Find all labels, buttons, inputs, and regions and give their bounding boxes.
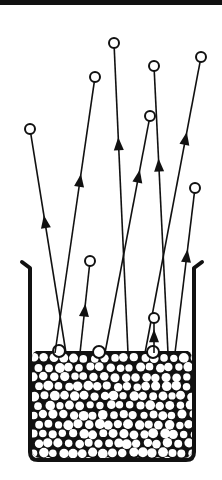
bed-particle [165,420,175,430]
bed-particle [93,382,102,391]
bed-particle [177,410,186,419]
bed-particle [87,401,94,408]
bed-particle [75,364,83,372]
bed-particle [39,353,47,361]
particle-trajectories [25,38,206,353]
surface-particle [93,346,105,358]
bed-particle [180,431,187,438]
arrowhead-icon [154,158,164,171]
bed-particle [99,429,107,437]
bed-particle [45,401,55,411]
bed-particle [138,392,146,400]
trajectory-t4 [149,61,168,353]
arrowhead-icon [149,329,159,342]
trajectory-t7 [79,256,95,353]
bed-particle [107,363,115,371]
bed-particle [126,401,134,409]
bed-particle [159,392,168,401]
escaping-particle [145,111,155,121]
trajectory-line [55,82,94,353]
bed-particle [79,411,89,421]
bed-particle [71,372,78,379]
bed-particle [105,439,113,447]
bed-particle [63,420,73,430]
bed-particle [170,355,177,362]
bed-particle [109,391,119,401]
escaping-particle [109,38,119,48]
bed-particle [55,363,65,373]
bed-particle [154,421,163,430]
bed-particle [79,429,89,439]
bed-particle [147,448,156,457]
bed-particle [140,412,147,419]
bed-particle [88,412,96,420]
escaping-particle [90,72,100,82]
bed-particle [88,448,97,457]
bed-particle [64,363,73,372]
bed-particle [150,411,158,419]
bed-particle [183,383,191,391]
bed-particle [168,412,176,420]
bed-particle [85,439,93,447]
bed-particle [43,381,53,391]
trajectory-line [114,48,128,353]
diagram-canvas [0,0,222,480]
bed-particle [107,400,116,409]
bed-particle [146,363,154,371]
arrowhead-icon [132,170,142,184]
bed-particle [123,419,133,429]
bed-particle [50,372,58,380]
bed-particle [179,353,189,363]
bed-particle [160,354,168,362]
trajectory-t3 [109,38,128,353]
trajectory-line [31,134,66,353]
bed-particle [125,364,132,371]
bed-particle [49,449,57,457]
bed-particle [177,402,184,409]
bed-particle [59,410,67,418]
bed-particle [60,391,69,400]
bed-particle [135,420,145,430]
bed-particle [130,353,138,361]
bed-particle [118,449,127,458]
bed-particle [136,362,145,371]
bed-particle [149,392,157,400]
bed-particle [50,391,60,401]
escaping-particle [149,61,159,71]
bed-particle [156,364,165,373]
bed-particle [49,430,57,438]
packed-particle-bed [29,345,202,468]
bed-particle [35,440,44,449]
arrowhead-icon [41,215,51,229]
bed-particle [59,449,68,458]
escaping-particle [85,256,95,266]
arrowhead-icon [114,137,124,150]
bed-particle [142,373,151,382]
bed-particle [151,374,159,382]
bed-particle [40,391,48,399]
bed-particle [120,410,128,418]
bed-particle [89,373,97,381]
bed-particle [79,355,87,363]
bed-particle [122,439,132,449]
bed-particle [45,364,53,372]
bed-particle [168,430,177,439]
bed-particle [172,373,181,382]
bed-particle [83,381,93,391]
bed-particle [114,420,122,428]
arrowhead-icon [74,174,84,188]
escaping-particle [149,313,159,323]
bed-particle [109,429,118,438]
bed-particle [163,438,172,447]
bed-particle [59,429,66,436]
bed-particle [168,449,176,457]
bed-particle [39,410,47,418]
bed-particle [145,421,153,429]
bed-particle [136,401,144,409]
bed-particle [98,410,108,420]
bed-particle [69,429,77,437]
bed-particle [104,421,113,430]
bed-particle [78,449,87,458]
bed-particle [164,363,173,372]
trajectory-line [145,62,200,353]
